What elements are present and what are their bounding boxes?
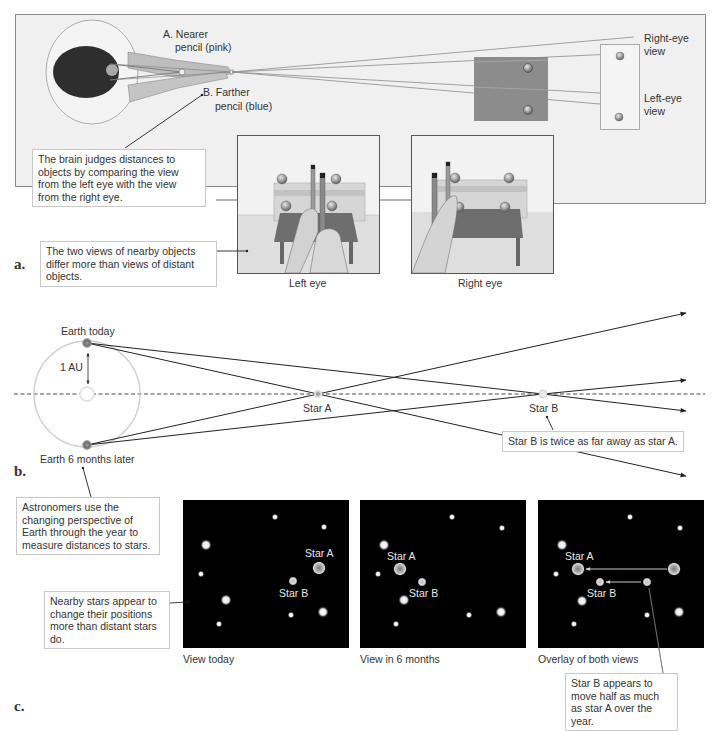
- overlay-star-b-label: Star B: [587, 587, 616, 599]
- six-months-star-a: [393, 562, 407, 576]
- sky-view-overlay: [538, 500, 704, 648]
- nearer-pencil-marker: [179, 69, 185, 75]
- overlay-star-a-today: [667, 562, 681, 576]
- overlay-star-b-6-months: [596, 578, 605, 587]
- callout-brain-judges-distances: The brain judges distances to objects by…: [32, 149, 206, 207]
- star-b-label: Star B: [529, 402, 558, 415]
- backdrop-ball-top: [524, 64, 533, 73]
- caption-overlay-both-views: Overlay of both views: [538, 653, 638, 666]
- earth-6-months-label: Earth 6 months later: [40, 453, 135, 466]
- sky-view-6-months: [360, 500, 526, 648]
- today-star-a-label: Star A: [305, 547, 334, 559]
- earth-today: [83, 339, 92, 348]
- callout-nearby-stars-change: Nearby stars appear to change their posi…: [44, 591, 170, 649]
- parallax-geometry: [14, 313, 705, 497]
- today-star-a: [312, 561, 326, 575]
- caption-view-today: View today: [183, 653, 234, 666]
- sun: [80, 387, 95, 402]
- six-months-star-b: [418, 578, 427, 587]
- panel-c-letter: c.: [14, 698, 24, 715]
- callout-astronomers-measure-distances: Astronomers use the changing perspective…: [16, 497, 160, 555]
- left-eye-view-label-line1: Left-eye: [644, 92, 682, 105]
- background-wall: [474, 57, 548, 121]
- callout-two-views-differ: The two views of nearby objects differ m…: [40, 241, 217, 287]
- overlay-star-a-label: Star A: [565, 550, 594, 562]
- overlay-star-b-today: [643, 578, 652, 587]
- overlay-star-a-6-months: [571, 562, 585, 576]
- farther-pencil-label-line2: pencil (blue): [215, 100, 272, 113]
- nearer-pencil-label-line1: A. Nearer: [163, 28, 208, 41]
- star-a-label: Star A: [303, 402, 332, 415]
- farther-pencil-label-line1: B. Farther: [203, 86, 250, 99]
- panel-b-letter: b.: [14, 463, 26, 480]
- panel-a-letter: a.: [14, 256, 25, 273]
- nearer-pencil-label-line2: pencil (pink): [175, 41, 232, 54]
- right-eye-view-label-line2: view: [644, 45, 665, 58]
- au-label: 1 AU: [60, 361, 83, 374]
- today-star-b-label: Star B: [279, 587, 308, 599]
- caption-right-eye: Right eye: [458, 277, 502, 290]
- star-b: [539, 390, 547, 398]
- left-eye-view-ball: [615, 113, 623, 121]
- caption-left-eye: Left eye: [289, 277, 326, 290]
- backdrop-ball-bottom: [524, 106, 533, 115]
- sky-view-today: [183, 500, 349, 648]
- callout-star-b-twice-as-far: Star B is twice as far away as star A.: [502, 431, 684, 452]
- earth-today-label: Earth today: [61, 325, 115, 338]
- six-months-star-a-label: Star A: [387, 550, 416, 562]
- six-months-star-b-label: Star B: [409, 587, 438, 599]
- right-eye-view-label-line1: Right-eye: [644, 32, 689, 45]
- left-eye-picture: [238, 136, 380, 274]
- today-star-b: [289, 577, 298, 586]
- pencil-far: [311, 165, 315, 213]
- right-eye-view-ball: [616, 52, 624, 60]
- right-eye-picture: [412, 136, 554, 274]
- caption-view-in-6-months: View in 6 months: [360, 653, 440, 666]
- callout-star-b-half-movement: Star B appears to move half as much as s…: [565, 673, 678, 731]
- left-eye-view-label-line2: view: [644, 105, 665, 118]
- earth-6-months-later: [83, 441, 92, 450]
